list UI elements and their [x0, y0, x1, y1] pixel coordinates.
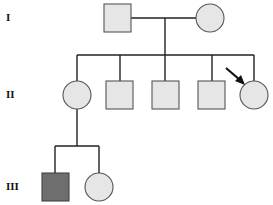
female-symbol-ii-1	[63, 81, 91, 109]
male-symbol-i-1	[104, 4, 131, 32]
pedigree-svg	[0, 0, 273, 205]
female-symbol-i-2	[196, 4, 224, 32]
proband-arrow-icon	[226, 68, 245, 85]
male-symbol-ii-4	[198, 81, 225, 109]
female-symbol-iii-2	[85, 173, 113, 201]
pedigree-diagram: I II III	[0, 0, 273, 205]
male-symbol-iii-1-affected	[42, 173, 69, 201]
male-symbol-ii-3	[152, 81, 179, 109]
male-symbol-ii-2	[106, 81, 133, 109]
female-symbol-ii-5-proband	[240, 81, 268, 109]
